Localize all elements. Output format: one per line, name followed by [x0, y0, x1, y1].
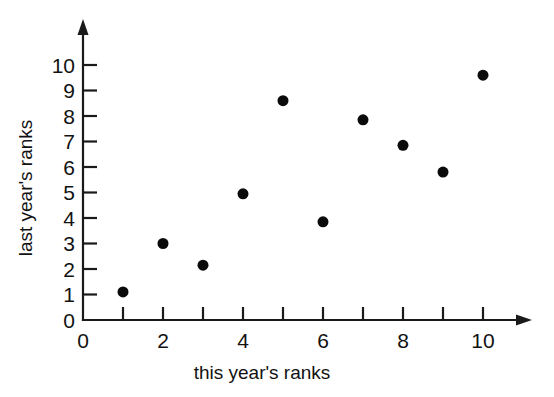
x-axis-arrow-icon: [516, 315, 532, 326]
y-tick-label-1: 1: [63, 283, 75, 306]
y-tick-label-8: 8: [63, 105, 75, 128]
data-point: [478, 70, 489, 81]
y-axis-title: last year's ranks: [15, 120, 36, 257]
data-point: [278, 95, 289, 106]
scatter-plot-figure: 0 1 2 3 4 5 6 7 8 9 10 0 2 4 6 8 10 this…: [0, 0, 554, 397]
data-point: [318, 216, 329, 227]
data-point: [358, 114, 369, 125]
x-tick-label-2: 2: [157, 329, 169, 352]
x-axis-title: this year's ranks: [194, 362, 331, 383]
data-point: [158, 238, 169, 249]
x-tick-label-0: 0: [77, 329, 89, 352]
y-tick-label-10: 10: [52, 54, 75, 77]
y-tick-label-6: 6: [63, 156, 75, 179]
x-tick-label-4: 4: [237, 329, 249, 352]
plot-canvas: 0 1 2 3 4 5 6 7 8 9 10 0 2 4 6 8 10 this…: [0, 0, 554, 397]
y-tick-label-0: 0: [63, 309, 75, 332]
y-tick-label-3: 3: [63, 232, 75, 255]
y-tick-label-7: 7: [63, 130, 75, 153]
data-point-group: [118, 70, 489, 298]
data-point: [398, 140, 409, 151]
y-tick-label-4: 4: [63, 207, 75, 230]
data-point: [238, 188, 249, 199]
data-point: [198, 260, 209, 271]
y-tick-label-2: 2: [63, 258, 75, 281]
y-tick-label-5: 5: [63, 181, 75, 204]
x-tick-label-8: 8: [397, 329, 409, 352]
x-tick-label-6: 6: [317, 329, 329, 352]
x-tick-label-10: 10: [471, 329, 494, 352]
data-point: [118, 286, 129, 297]
y-tick-label-9: 9: [63, 79, 75, 102]
y-axis-arrow-icon: [78, 19, 89, 35]
data-point: [438, 167, 449, 178]
